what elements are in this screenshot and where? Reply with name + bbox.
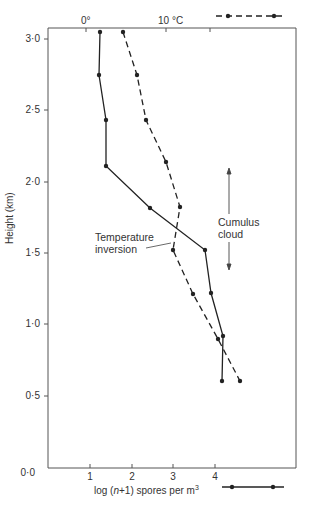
- temperature-tick-label: 10 °C: [158, 15, 183, 26]
- y-tick-label: 0·0: [5, 467, 35, 478]
- y-tick-label: 1·5: [10, 247, 40, 258]
- x-axis-title: log (n+1) spores per m3: [94, 482, 199, 496]
- y-axis-ticks: [44, 39, 48, 396]
- spores-series: [97, 30, 225, 383]
- x-tick-label: 2: [122, 471, 142, 482]
- cloud-annotation: Cumulus cloud: [218, 216, 259, 240]
- y-tick-label: 1·0: [10, 318, 40, 329]
- y-tick-label: 2·5: [10, 104, 40, 115]
- y-tick-label: 3·0: [10, 33, 40, 44]
- spores-legend-icon: [222, 485, 284, 489]
- y-tick-label: 0·5: [10, 390, 40, 401]
- y-tick-label: 2·0: [10, 176, 40, 187]
- temperature-legend-icon: [216, 14, 286, 18]
- x-tick-label: 3: [163, 471, 183, 482]
- plot-frame: [48, 28, 296, 468]
- x-axis-ticks: [90, 464, 215, 468]
- temperature-axis-ticks: [86, 28, 210, 32]
- x-tick-label: 4: [205, 471, 225, 482]
- y-axis-title: Height (km): [4, 192, 15, 244]
- chart-canvas: [0, 0, 309, 506]
- x-tick-label: 1: [80, 471, 100, 482]
- inversion-annotation: Temperature inversion: [95, 231, 154, 255]
- temperature-series: [121, 30, 242, 383]
- temperature-tick-label: 0°: [81, 15, 91, 26]
